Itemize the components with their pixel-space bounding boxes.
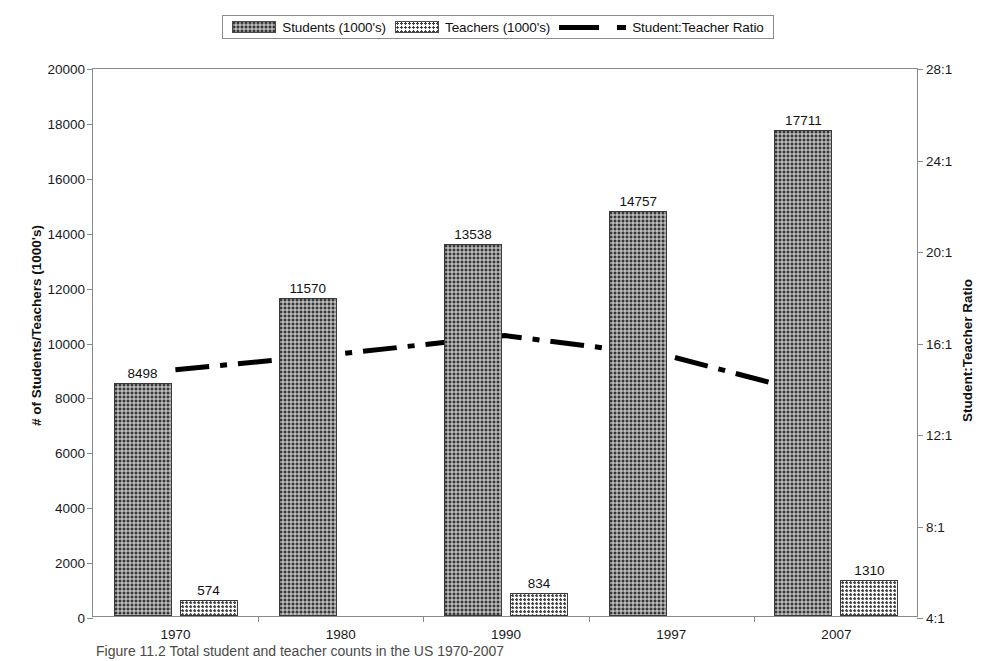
y-axis-right-tick-label: 24:1 bbox=[926, 153, 952, 168]
y-axis-left-tick-mark bbox=[87, 69, 93, 70]
bar-label-teachers: 834 bbox=[528, 576, 551, 591]
y-axis-left-tick-mark bbox=[87, 508, 93, 509]
y-axis-left-tick-label: 18000 bbox=[47, 116, 85, 131]
y-axis-right-tick-mark bbox=[917, 69, 923, 70]
y-axis-left-tick-mark bbox=[87, 453, 93, 454]
legend-label-ratio: Student:Teacher Ratio bbox=[632, 20, 763, 35]
plot-inner: 2000018000160001400012000100008000600040… bbox=[93, 69, 917, 616]
bar-students bbox=[774, 130, 832, 616]
y-axis-right-tick-mark bbox=[917, 527, 923, 528]
y-axis-left-tick-label: 14000 bbox=[47, 226, 85, 241]
x-axis-tick-mark bbox=[754, 616, 755, 622]
y-axis-right-title: Student:Teacher Ratio bbox=[960, 236, 975, 466]
y-axis-left-tick-label: 12000 bbox=[47, 281, 85, 296]
y-axis-right-tick-label: 12:1 bbox=[926, 428, 952, 443]
legend-label-students: Students (1000's) bbox=[282, 20, 386, 35]
y-axis-left-tick-label: 2000 bbox=[55, 556, 85, 571]
ratio-polyline bbox=[175, 336, 834, 400]
y-axis-left-tick-label: 20000 bbox=[47, 62, 85, 77]
x-axis-tick-mark bbox=[589, 616, 590, 622]
bar-label-teachers: 1310 bbox=[854, 563, 884, 578]
students-swatch-icon bbox=[232, 21, 276, 33]
chart-legend: Students (1000's) Teachers (1000's) Stud… bbox=[222, 15, 774, 39]
y-axis-left-tick-mark bbox=[87, 124, 93, 125]
y-axis-left-title: # of Students/Teachers (1000's) bbox=[29, 201, 44, 451]
y-axis-left-tick-mark bbox=[87, 289, 93, 290]
ratio-line-swatch-icon bbox=[559, 25, 599, 30]
y-axis-left-tick-mark bbox=[87, 344, 93, 345]
teachers-swatch-icon bbox=[395, 21, 439, 33]
y-axis-right-tick-label: 16:1 bbox=[926, 336, 952, 351]
y-axis-right-tick-label: 8:1 bbox=[926, 519, 945, 534]
bar-teachers bbox=[840, 580, 898, 616]
bar-label-students: 14757 bbox=[619, 194, 657, 209]
y-axis-right-tick-mark bbox=[917, 252, 923, 253]
x-axis-tick-mark bbox=[258, 616, 259, 622]
y-axis-right-tick-mark bbox=[917, 161, 923, 162]
y-axis-right-tick-label: 4:1 bbox=[926, 611, 945, 626]
bar-label-teachers: 574 bbox=[197, 583, 220, 598]
legend-item-ratio: Student:Teacher Ratio bbox=[559, 20, 763, 35]
bar-teachers bbox=[510, 593, 568, 616]
y-axis-left-tick-label: 10000 bbox=[47, 336, 85, 351]
bar-label-students: 13538 bbox=[454, 227, 492, 242]
x-axis-tick-label: 1990 bbox=[491, 627, 521, 642]
bar-students bbox=[609, 211, 667, 616]
y-axis-left-tick-mark bbox=[87, 179, 93, 180]
ratio-dot-swatch-icon bbox=[617, 25, 626, 30]
y-axis-right-tick-label: 20:1 bbox=[926, 245, 952, 260]
y-axis-right-tick-mark bbox=[917, 344, 923, 345]
bar-teachers bbox=[180, 600, 238, 616]
y-axis-left-tick-mark bbox=[87, 563, 93, 564]
x-axis-tick-mark bbox=[423, 616, 424, 622]
y-axis-right-tick-mark bbox=[917, 435, 923, 436]
x-axis-tick-label: 1997 bbox=[656, 627, 686, 642]
bar-students bbox=[114, 383, 172, 616]
chart-plot-area: 2000018000160001400012000100008000600040… bbox=[92, 68, 918, 617]
y-axis-left-tick-mark bbox=[87, 398, 93, 399]
y-axis-left-tick-label: 0 bbox=[77, 611, 85, 626]
y-axis-left-tick-mark bbox=[87, 234, 93, 235]
legend-item-teachers: Teachers (1000's) bbox=[395, 20, 550, 35]
y-axis-left-tick-label: 4000 bbox=[55, 501, 85, 516]
x-axis-tick-label: 1970 bbox=[161, 627, 191, 642]
x-axis-tick-label: 1980 bbox=[326, 627, 356, 642]
bar-students bbox=[279, 298, 337, 616]
bar-label-students: 8498 bbox=[128, 366, 158, 381]
y-axis-left-tick-label: 8000 bbox=[55, 391, 85, 406]
y-axis-left-tick-label: 16000 bbox=[47, 171, 85, 186]
y-axis-left-tick-label: 6000 bbox=[55, 446, 85, 461]
legend-label-teachers: Teachers (1000's) bbox=[445, 20, 550, 35]
bar-students bbox=[444, 244, 502, 616]
y-axis-right-tick-mark bbox=[917, 618, 923, 619]
legend-item-students: Students (1000's) bbox=[232, 20, 386, 35]
y-axis-left-tick-mark bbox=[87, 618, 93, 619]
y-axis-right-tick-label: 28:1 bbox=[926, 62, 952, 77]
bar-label-students: 17711 bbox=[785, 113, 822, 128]
figure-caption: Figure 11.2 Total student and teacher co… bbox=[96, 643, 976, 659]
bar-label-students: 11570 bbox=[290, 281, 327, 296]
x-axis-tick-label: 2007 bbox=[821, 627, 851, 642]
